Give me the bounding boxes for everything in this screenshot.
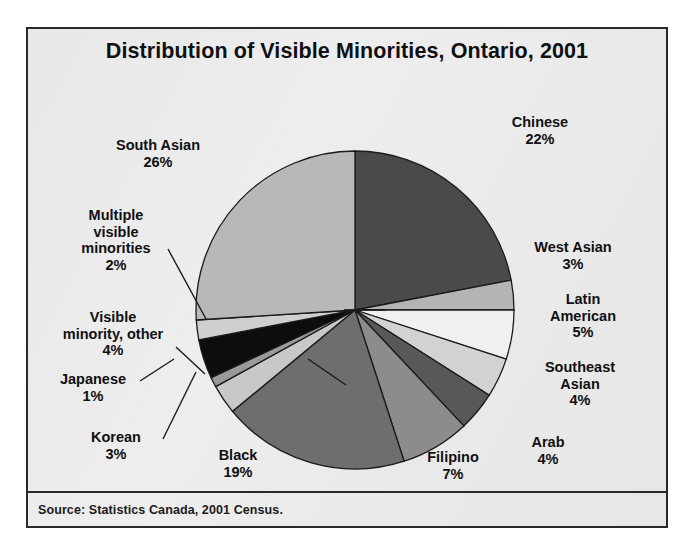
slice-label-japanese-pct: 1% xyxy=(40,388,146,405)
slice-label-filipino-name: Filipino xyxy=(427,449,479,465)
slice-label-visible-minority-other-pct: 4% xyxy=(44,342,182,359)
slice-label-southeast-asian-line2: Asian xyxy=(560,376,600,392)
slice-label-arab: Arab 4% xyxy=(498,434,598,467)
slice-label-latin-american-line2: American xyxy=(550,308,616,324)
slice-label-chinese-name: Chinese xyxy=(512,114,568,130)
slice-label-multiple-visible-minorities-line3: minorities xyxy=(81,240,150,256)
slice-label-visible-minority-other: Visible minority, other 4% xyxy=(44,309,182,359)
leader-line-korean xyxy=(163,372,196,439)
slice-label-south-asian: South Asian 26% xyxy=(88,137,228,170)
slice-label-multiple-visible-minorities-line1: Multiple xyxy=(89,207,144,223)
slice-label-southeast-asian-line1: Southeast xyxy=(545,359,615,375)
slice-label-southeast-asian-pct: 4% xyxy=(516,392,644,409)
slice-label-multiple-visible-minorities-pct: 2% xyxy=(56,257,176,274)
source-divider xyxy=(28,491,666,493)
figure-page: Distribution of Visible Minorities, Onta… xyxy=(0,0,695,560)
slice-label-korean-name: Korean xyxy=(91,429,141,445)
slice-label-filipino: Filipino 7% xyxy=(398,449,508,482)
slice-label-korean-pct: 3% xyxy=(66,446,166,463)
pie-slice xyxy=(196,151,355,320)
slice-label-chinese-pct: 22% xyxy=(480,131,600,148)
slice-label-arab-pct: 4% xyxy=(498,451,598,468)
slice-label-latin-american-line1: Latin xyxy=(566,291,601,307)
slice-label-chinese: Chinese 22% xyxy=(480,114,600,147)
slice-label-south-asian-pct: 26% xyxy=(88,154,228,171)
slice-label-multiple-visible-minorities: Multiple visible minorities 2% xyxy=(56,207,176,273)
slice-label-west-asian-name: West Asian xyxy=(534,239,611,255)
slice-label-west-asian: West Asian 3% xyxy=(508,239,638,272)
slice-label-korean: Korean 3% xyxy=(66,429,166,462)
slice-label-filipino-pct: 7% xyxy=(398,466,508,483)
slice-label-black-name: Black xyxy=(219,447,258,463)
slice-label-latin-american: Latin American 5% xyxy=(520,291,646,341)
slice-label-visible-minority-other-line1: Visible xyxy=(90,309,136,325)
slice-label-south-asian-name: South Asian xyxy=(116,137,200,153)
slice-label-black-pct: 19% xyxy=(183,464,293,481)
chart-figure-frame: Distribution of Visible Minorities, Onta… xyxy=(26,27,668,528)
slice-label-visible-minority-other-line2: minority, other xyxy=(63,326,163,342)
slice-label-latin-american-pct: 5% xyxy=(520,324,646,341)
slice-label-west-asian-pct: 3% xyxy=(508,256,638,273)
pie-chart-area: South Asian 26% Chinese 22% West Asian 3… xyxy=(28,29,666,526)
slice-label-arab-name: Arab xyxy=(531,434,564,450)
slice-label-japanese-name: Japanese xyxy=(60,371,126,387)
slice-label-southeast-asian: Southeast Asian 4% xyxy=(516,359,644,409)
slice-label-black: Black 19% xyxy=(183,447,293,480)
slice-label-japanese: Japanese 1% xyxy=(40,371,146,404)
slice-label-multiple-visible-minorities-line2: visible xyxy=(93,224,138,240)
source-note: Source: Statistics Canada, 2001 Census. xyxy=(38,503,283,517)
